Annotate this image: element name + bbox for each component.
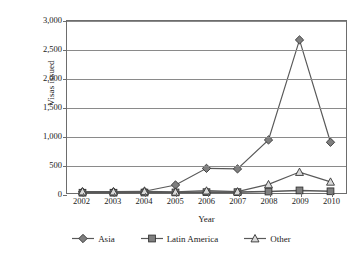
x-tick-label: 2007	[229, 196, 246, 206]
x-tick-label: 2010	[323, 196, 340, 206]
y-tick-mark	[63, 108, 67, 109]
plot-area	[66, 20, 347, 194]
y-tick-label: 2,000	[43, 73, 62, 83]
y-tick-label: 0	[58, 189, 62, 199]
y-tick-mark	[63, 166, 67, 167]
x-axis-title: Year	[66, 214, 347, 224]
legend-marker-diamond-icon	[72, 233, 94, 244]
y-tick-label: 2,500	[43, 44, 62, 54]
visas-issued-line-chart: Visas issued 05001,0001,5002,0002,5003,0…	[0, 0, 363, 258]
x-tick-label: 2003	[104, 196, 121, 206]
legend-label: Asia	[98, 234, 115, 244]
y-tick-label: 1,000	[43, 131, 62, 141]
y-tick-mark	[63, 21, 67, 22]
x-tick-label: 2004	[136, 196, 153, 206]
data-point-marker	[295, 36, 303, 44]
gridline	[67, 137, 346, 138]
y-tick-label: 500	[49, 160, 62, 170]
x-tick-label: 2006	[198, 196, 215, 206]
y-axis-tick-labels: 05001,0001,5002,0002,5003,000	[26, 0, 62, 258]
series-layer	[67, 21, 346, 193]
y-tick-label: 1,500	[43, 102, 62, 112]
legend-item-latin-america[interactable]: Latin America	[141, 233, 219, 244]
data-point-marker	[265, 180, 273, 187]
data-point-marker	[148, 235, 155, 242]
x-tick-label: 2002	[73, 196, 90, 206]
data-point-marker	[296, 168, 304, 175]
legend-item-asia[interactable]: Asia	[72, 233, 115, 244]
data-point-marker	[79, 234, 87, 242]
gridline	[67, 166, 346, 167]
legend-label: Latin America	[167, 234, 219, 244]
gridline	[67, 21, 346, 22]
x-tick-label: 2008	[260, 196, 277, 206]
y-tick-mark	[63, 137, 67, 138]
legend-marker-triangle-icon	[244, 233, 266, 244]
legend-item-other[interactable]: Other	[244, 233, 291, 244]
gridline	[67, 108, 346, 109]
x-tick-label: 2009	[292, 196, 309, 206]
legend-marker-square-icon	[141, 233, 163, 244]
gridline	[67, 79, 346, 80]
y-tick-mark	[63, 79, 67, 80]
y-tick-mark	[63, 50, 67, 51]
x-axis-tick-labels: 200220032004200520062007200820092010	[66, 196, 347, 212]
legend-label: Other	[270, 234, 291, 244]
series-asia	[78, 36, 334, 196]
data-point-marker	[326, 138, 334, 146]
x-tick-label: 2005	[167, 196, 184, 206]
chart-legend: AsiaLatin AmericaOther	[0, 233, 363, 244]
y-tick-label: 3,000	[43, 15, 62, 25]
gridline	[67, 50, 346, 51]
